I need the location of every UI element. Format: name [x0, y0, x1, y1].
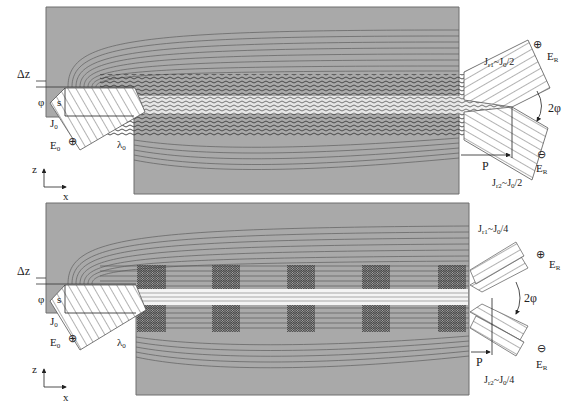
minus-symbol-out: ⊖ [537, 342, 546, 354]
er-minus-label: ER [536, 358, 548, 372]
axis-z-label: z [32, 363, 37, 375]
two-phi-arc [516, 282, 520, 314]
two-phi-label: 2φ [524, 291, 537, 305]
figure: Δz φ s J0 E0 ⊕ λ0 Jr1~J0/2 Jr2~J0/2 2φ P… [0, 0, 574, 415]
axis-x-label: x [63, 190, 69, 202]
grating-block-1 [137, 265, 166, 289]
j0-label: J0 [50, 315, 58, 329]
jr2-label: Jr2~J0/4 [484, 374, 514, 387]
lambda-label: λ0 [117, 336, 126, 350]
two-phi-label: 2φ [548, 101, 561, 115]
s-label: s [57, 293, 61, 305]
jr2-label: Jr2~J0/2 [492, 177, 522, 190]
axis-x-label: x [63, 391, 69, 403]
minus-symbol-out: ⊖ [537, 148, 546, 160]
two-phi-arc [537, 91, 542, 121]
p-label: P [482, 159, 489, 173]
grating-block-3 [287, 265, 315, 289]
plus-symbol-out: ⊕ [536, 248, 545, 260]
j0-label: J0 [50, 117, 58, 131]
p-label: P [476, 355, 483, 369]
lambda-label: λ0 [117, 138, 126, 152]
axes-bottom [44, 369, 66, 387]
delta-z-label: Δz [17, 264, 30, 278]
panel-top: Δz φ s J0 E0 ⊕ λ0 Jr1~J0/2 Jr2~J0/2 2φ P… [17, 7, 561, 202]
phi-label: φ [38, 293, 44, 305]
er-plus-label: ER [547, 50, 559, 64]
plus-symbol-incident: ⊕ [68, 332, 77, 344]
er-plus-label: ER [549, 258, 561, 272]
delta-z-label: Δz [17, 67, 30, 81]
reflected-beams [470, 242, 528, 356]
s-label: s [57, 96, 61, 108]
panel-bottom: Δz φ s J0 E0 ⊕ λ0 Jr1~J0/4 Jr2~J0/4 2φ P… [17, 203, 561, 403]
grating-block-5 [438, 265, 466, 289]
plus-symbol-incident: ⊕ [68, 135, 77, 147]
e0-label: E0 [50, 139, 61, 153]
grating-block-2 [212, 265, 240, 289]
jr1-label: Jr1~J0/4 [478, 223, 508, 236]
plus-symbol-out: ⊕ [533, 38, 542, 50]
axis-z-label: z [32, 163, 37, 175]
grating-block-4 [362, 265, 390, 289]
e0-label: E0 [50, 336, 61, 350]
er-minus-label: ER [536, 162, 548, 176]
phi-label: φ [38, 96, 44, 108]
axes-top [44, 169, 66, 187]
diagram-canvas: Δz φ s J0 E0 ⊕ λ0 Jr1~J0/2 Jr2~J0/2 2φ P… [0, 0, 574, 415]
